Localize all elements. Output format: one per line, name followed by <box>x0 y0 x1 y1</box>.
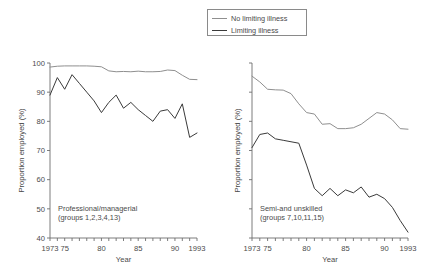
y-tick-label: 70 <box>37 146 45 155</box>
x-tick-label: 1973 <box>244 244 261 253</box>
x-tick-label: 90 <box>380 244 388 253</box>
panel-sublabel: (groups 1,2,3,4,13) <box>58 213 120 222</box>
chart-figure: No limiting illness Limiting illness 405… <box>0 0 436 280</box>
x-tick-label: 1973 <box>42 244 59 253</box>
x-tick-label: 85 <box>134 244 142 253</box>
x-tick-label: 90 <box>171 244 179 253</box>
x-tick-label: 80 <box>302 244 310 253</box>
x-tick-label: 1993 <box>400 244 417 253</box>
x-tick-label: 75 <box>263 244 271 253</box>
panel-professional-managerial: 4050607080901001973758085901993YearPropo… <box>0 0 218 280</box>
x-tick-label: 80 <box>97 244 105 253</box>
series-line-limiting-illness <box>50 75 197 138</box>
panel-label: Semi-and unskilled <box>260 204 322 213</box>
x-tick-label: 85 <box>341 244 349 253</box>
x-tick-label: 75 <box>60 244 68 253</box>
x-axis-label: Year <box>322 255 338 264</box>
plot-area-left: 4050607080901001973758085901993YearPropo… <box>0 0 218 280</box>
y-tick-label: 100 <box>32 59 45 68</box>
y-tick-label: 50 <box>37 205 45 214</box>
y-tick-label: 40 <box>37 234 45 243</box>
y-tick-label: 90 <box>37 88 45 97</box>
x-axis-label: Year <box>116 255 132 264</box>
x-tick-label: 1993 <box>189 244 206 253</box>
y-tick-label: 60 <box>37 175 45 184</box>
series-line-no-limiting-illness <box>50 66 197 80</box>
panel-sublabel: (groups 7,10,11,15) <box>260 213 324 222</box>
y-axis-label: Proportion employed (%) <box>17 108 26 192</box>
panel-label: Professional/managerial <box>58 204 138 213</box>
series-line-no-limiting-illness <box>252 76 408 129</box>
y-tick-label: 80 <box>37 117 45 126</box>
y-axis-label: Proportion employed (%) <box>233 108 242 192</box>
plot-area-right: 1973758085901993YearProportion employed … <box>218 0 436 280</box>
panel-semi-and-unskilled: 1973758085901993YearProportion employed … <box>218 0 436 280</box>
